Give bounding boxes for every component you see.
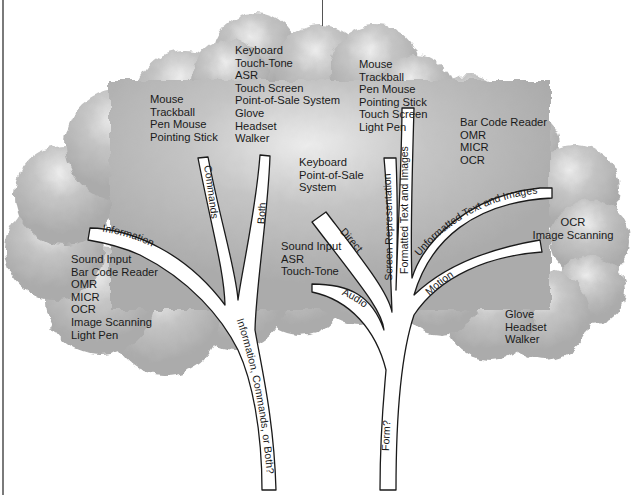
device-item: MICR xyxy=(71,291,158,304)
device-item: Bar Code Reader xyxy=(460,116,547,129)
device-item: Image Scanning xyxy=(71,316,158,329)
device-item: Pen Mouse xyxy=(359,83,427,96)
device-item: OMR xyxy=(71,278,158,291)
device-item: Glove xyxy=(235,107,340,120)
device-list-unformatted-text: OCR Image Scanning xyxy=(518,216,628,241)
device-item: Glove xyxy=(505,308,547,321)
input-device-tree-diagram: Information Commands Both Information, C… xyxy=(0,0,642,495)
device-item: Bar Code Reader xyxy=(71,266,158,279)
device-item: OCR xyxy=(460,154,547,167)
branch-label-formatted-text: Formatted Text and Images xyxy=(398,146,410,274)
device-item: Trackball xyxy=(150,106,218,119)
device-list-commands: Mouse Trackball Pen Mouse Pointing Stick xyxy=(150,93,218,143)
device-item: MICR xyxy=(460,141,547,154)
device-item: Mouse xyxy=(150,93,218,106)
device-item: Headset xyxy=(505,321,547,334)
device-list-formatted-text: Bar Code Reader OMR MICR OCR xyxy=(460,116,547,166)
device-item: Light Pen xyxy=(359,121,427,134)
device-list-direct: Keyboard Point-of-Sale System xyxy=(299,156,364,194)
branch-label-both: Both xyxy=(255,202,268,224)
device-item: ASR xyxy=(281,253,341,266)
device-item: Walker xyxy=(505,333,547,346)
device-item: Touch Screen xyxy=(235,82,340,95)
device-item: Touch Screen xyxy=(359,108,427,121)
trunk-question-right: Form? xyxy=(379,420,392,451)
device-item: Light Pen xyxy=(71,329,158,342)
device-list-screen-representation: Mouse Trackball Pen Mouse Pointing Stick… xyxy=(359,58,427,134)
device-item: OCR xyxy=(71,303,158,316)
device-item: Image Scanning xyxy=(518,229,628,242)
device-item: Point-of-Sale System xyxy=(235,94,340,107)
device-item: Mouse xyxy=(359,58,427,71)
device-item: ASR xyxy=(235,69,340,82)
device-list-audio: Sound Input ASR Touch-Tone xyxy=(281,240,341,278)
device-list-information: Sound Input Bar Code Reader OMR MICR OCR… xyxy=(71,253,158,341)
device-item: System xyxy=(299,181,364,194)
device-item: Touch-Tone xyxy=(281,265,341,278)
device-item: Headset xyxy=(235,120,340,133)
device-item: Sound Input xyxy=(281,240,341,253)
device-item: Walker xyxy=(235,132,340,145)
device-item: OCR xyxy=(518,216,628,229)
device-item: Touch-Tone xyxy=(235,57,340,70)
device-list-both: Keyboard Touch-Tone ASR Touch Screen Poi… xyxy=(235,44,340,145)
device-item: Pointing Stick xyxy=(359,96,427,109)
device-item: Trackball xyxy=(359,71,427,84)
device-item: Sound Input xyxy=(71,253,158,266)
device-item: Point-of-Sale xyxy=(299,169,364,182)
device-item: Pen Mouse xyxy=(150,118,218,131)
device-item: Keyboard xyxy=(235,44,340,57)
device-list-motion: Glove Headset Walker xyxy=(505,308,547,346)
device-item: OMR xyxy=(460,129,547,142)
device-item: Keyboard xyxy=(299,156,364,169)
branch-label-screen-representation: Screen Representation xyxy=(381,173,395,281)
device-item: Pointing Stick xyxy=(150,131,218,144)
